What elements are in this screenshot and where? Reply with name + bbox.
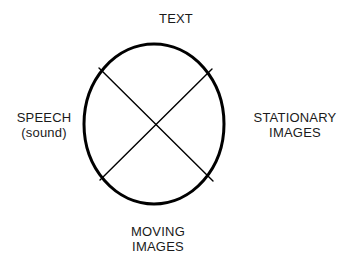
label-text-line1: TEXT — [0, 11, 352, 26]
label-text-top: TEXT — [0, 11, 352, 26]
label-speech-left: SPEECH (sound) — [4, 110, 84, 140]
label-moving-images-bottom: MOVING IMAGES — [106, 224, 210, 254]
diagram-canvas: TEXT SPEECH (sound) STATIONARY IMAGES MO… — [0, 0, 352, 277]
label-speech-line2: (sound) — [4, 125, 84, 140]
label-speech-line1: SPEECH — [4, 110, 84, 125]
label-stationary-images-right: STATIONARY IMAGES — [243, 110, 347, 140]
label-stationary-line1: STATIONARY — [243, 110, 347, 125]
label-stationary-line2: IMAGES — [243, 125, 347, 140]
label-moving-line1: MOVING — [106, 224, 210, 239]
label-moving-line2: IMAGES — [106, 239, 210, 254]
outer-circle — [84, 44, 224, 204]
